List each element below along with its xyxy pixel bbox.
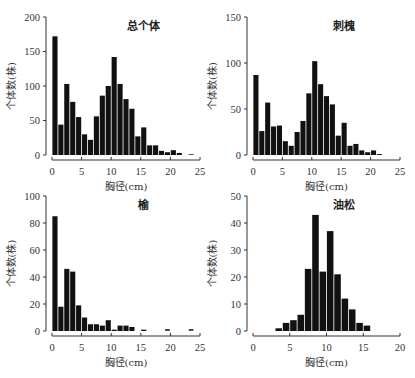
y-axis-title: 个体数(株)	[5, 62, 17, 110]
bars	[275, 215, 370, 331]
y-tick-label: 50	[231, 104, 242, 115]
y-tick-label: 150	[225, 12, 241, 23]
y-tick-label: 200	[24, 12, 40, 23]
histogram-bar	[52, 36, 57, 155]
histogram-bar	[359, 150, 364, 155]
histogram-bar	[100, 96, 105, 155]
panel-title: 刺槐	[332, 19, 355, 33]
y-tick-label: 20	[30, 299, 41, 310]
histogram-bar	[88, 324, 93, 331]
histogram-bar	[112, 57, 117, 155]
histogram-bar	[300, 121, 305, 155]
x-tick-label: 5	[280, 166, 285, 177]
histogram-bar	[153, 145, 158, 155]
bars	[52, 216, 193, 331]
histogram-bar	[94, 324, 99, 331]
y-tick-label: 50	[231, 191, 242, 202]
histogram-bar	[253, 75, 258, 155]
histogram-bar	[271, 126, 276, 155]
y-tick-label: 50	[30, 115, 41, 126]
x-tick-label: 10	[321, 342, 332, 353]
histogram-bar	[82, 318, 87, 332]
histogram-bar	[356, 323, 363, 331]
x-tick-label: 25	[195, 342, 206, 353]
chart-elm: 0204060801000510152025榆胸径(cm)个体数(株)	[0, 185, 210, 355]
histogram-bar	[135, 136, 140, 155]
x-tick-label: 0	[250, 342, 255, 353]
y-tick-label: 100	[24, 81, 40, 92]
y-tick-label: 20	[231, 272, 242, 283]
y-tick-label: 0	[236, 150, 241, 161]
y-tick-label: 100	[24, 191, 40, 202]
x-tick-label: 0	[49, 342, 54, 353]
histogram-bar	[70, 102, 75, 155]
histogram-bar	[64, 269, 69, 331]
histogram-bar	[306, 93, 311, 155]
histogram-bar	[277, 126, 282, 155]
histogram-bar	[347, 146, 352, 155]
x-tick-label: 5	[79, 166, 84, 177]
histogram-bar	[118, 326, 123, 331]
x-tick-label: 15	[358, 342, 369, 353]
histogram-bar	[64, 84, 69, 155]
histogram-bar	[118, 84, 123, 155]
histogram-bar	[76, 117, 81, 155]
histogram-bar	[324, 96, 329, 155]
histogram-bar	[312, 215, 319, 331]
x-tick-label: 15	[136, 166, 147, 177]
histogram-bar	[320, 272, 327, 331]
y-tick-label: 150	[24, 46, 40, 57]
histogram-bar	[377, 154, 382, 155]
x-tick-label: 5	[287, 342, 292, 353]
x-tick-label: 20	[165, 166, 176, 177]
histogram-bar	[336, 136, 341, 155]
x-tick-label: 10	[106, 342, 117, 353]
panel-title: 油松	[333, 198, 355, 212]
x-tick-label: 20	[395, 342, 406, 353]
histogram-bar	[100, 326, 105, 331]
histogram-bar	[189, 154, 194, 155]
histogram-bar	[283, 323, 290, 331]
chart-robinia: 0501001500510152025刺槐胸径(cm)个体数(株)	[205, 0, 415, 185]
y-tick-label: 0	[236, 326, 241, 337]
x-tick-label: 25	[395, 166, 406, 177]
y-tick-label: 100	[225, 58, 241, 69]
histogram-bar	[318, 84, 323, 155]
panel-title: 榆	[138, 198, 150, 212]
histogram-bar	[275, 328, 282, 331]
histogram-bar	[94, 116, 99, 155]
x-tick-label: 10	[307, 166, 318, 177]
histogram-bar	[159, 151, 164, 155]
histogram-bar	[177, 153, 182, 155]
x-tick-label: 15	[336, 166, 347, 177]
bars	[253, 61, 382, 155]
histogram-bar	[334, 274, 341, 331]
histogram-bar	[259, 131, 264, 155]
histogram-bar	[70, 272, 75, 331]
chart-svg-pine: 0102030405005101520油松胸径(cm)个体数(株)	[205, 185, 415, 355]
x-tick-label: 25	[195, 166, 206, 177]
y-tick-label: 40	[30, 272, 41, 283]
chart-svg-total: 0501001502000510152025总个体胸径(cm)个体数(株)	[0, 0, 210, 185]
histogram-bar	[52, 216, 57, 331]
y-tick-label: 0	[35, 150, 40, 161]
histogram-bar	[371, 150, 376, 155]
histogram-bar	[112, 330, 117, 331]
histogram-bar	[312, 61, 317, 155]
y-axis-title: 个体数(株)	[206, 240, 218, 288]
chart-svg-robinia: 0501001500510152025刺槐胸径(cm)个体数(株)	[205, 0, 415, 185]
histogram-bar	[364, 326, 371, 331]
x-tick-label: 0	[49, 166, 54, 177]
chart-pine: 0102030405005101520油松胸径(cm)个体数(株)	[205, 185, 415, 355]
x-tick-label: 5	[79, 342, 84, 353]
y-tick-label: 40	[231, 218, 242, 229]
histogram-bar	[76, 305, 81, 331]
histogram-bar	[290, 320, 297, 331]
y-tick-label: 60	[30, 245, 41, 256]
panel-title: 总个体	[127, 19, 161, 33]
figure-caption-faint	[90, 366, 340, 378]
histogram-bar	[129, 327, 134, 331]
histogram-bar	[365, 152, 370, 155]
histogram-bar	[106, 320, 111, 331]
histogram-bar	[171, 150, 176, 155]
